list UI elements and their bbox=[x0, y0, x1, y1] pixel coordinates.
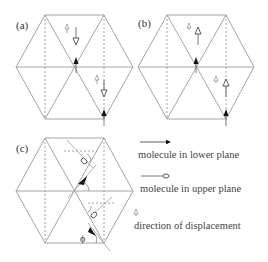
panel-c-label: (c) bbox=[16, 142, 28, 154]
legend-upper-plane-arrow-icon bbox=[141, 174, 169, 178]
legend-displacement-text: direction of displacement bbox=[134, 220, 241, 231]
panel-a-hexagon bbox=[16, 15, 133, 119]
legend-upper-plane-text: molecule in upper plane bbox=[140, 183, 241, 194]
legend-lower-plane-text: molecule in lower plane bbox=[138, 149, 239, 160]
panel-b-label: (b) bbox=[138, 17, 151, 29]
panel-c-arrows bbox=[67, 140, 112, 251]
legend-displacement-arrow-icon bbox=[134, 209, 138, 216]
panel-b-arrows bbox=[187, 23, 229, 126]
panel-a-label: (a) bbox=[16, 19, 28, 31]
phi-angle-label: ϕ bbox=[80, 233, 85, 244]
panel-a-arrows bbox=[65, 24, 107, 126]
